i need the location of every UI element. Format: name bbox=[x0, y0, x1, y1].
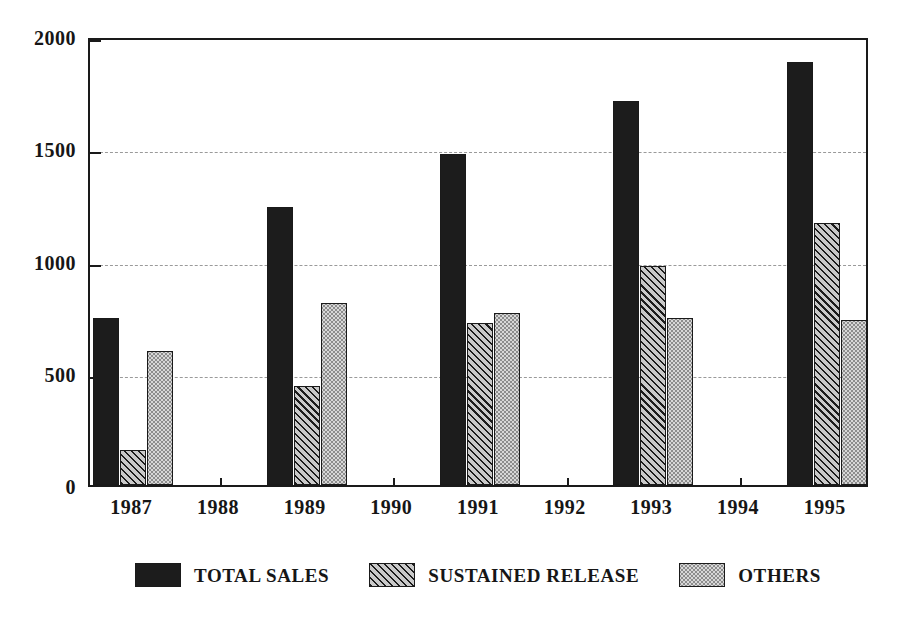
bar bbox=[494, 313, 520, 485]
gridline bbox=[90, 152, 866, 153]
legend-label: OTHERS bbox=[738, 566, 821, 585]
x-tick-label: 1993 bbox=[606, 497, 696, 517]
plot-area bbox=[88, 38, 868, 487]
bar bbox=[321, 303, 347, 485]
x-tick-mark bbox=[220, 478, 222, 485]
legend-label: TOTAL SALES bbox=[194, 566, 329, 585]
bar bbox=[93, 318, 119, 485]
y-tick-label: 1500 bbox=[0, 140, 76, 160]
bar bbox=[667, 318, 693, 485]
bar bbox=[787, 62, 813, 485]
chart-legend: TOTAL SALESSUSTAINED RELEASEOTHERS bbox=[88, 552, 868, 598]
legend-label: SUSTAINED RELEASE bbox=[428, 566, 639, 585]
y-tick-mark bbox=[90, 40, 101, 42]
x-tick-label: 1995 bbox=[780, 497, 870, 517]
plot-inner bbox=[90, 40, 866, 485]
y-tick-label: 500 bbox=[0, 365, 76, 385]
bar-chart: 0500100015002000 19871988198919901991199… bbox=[0, 0, 903, 619]
bar bbox=[267, 207, 293, 485]
x-tick-label: 1991 bbox=[433, 497, 523, 517]
y-tick-label: 0 bbox=[0, 477, 76, 497]
bar bbox=[147, 351, 173, 485]
x-tick-label: 1992 bbox=[520, 497, 610, 517]
legend-item[interactable]: OTHERS bbox=[679, 563, 821, 587]
bar bbox=[640, 266, 666, 485]
x-tick-mark bbox=[740, 478, 742, 485]
x-tick-label: 1989 bbox=[260, 497, 350, 517]
bar bbox=[613, 101, 639, 485]
y-tick-mark bbox=[90, 152, 101, 154]
y-tick-mark bbox=[90, 265, 101, 267]
x-tick-mark bbox=[567, 478, 569, 485]
y-tick-label: 1000 bbox=[0, 253, 76, 273]
bar bbox=[814, 223, 840, 485]
bar bbox=[294, 386, 320, 485]
legend-swatch-icon bbox=[679, 563, 725, 587]
bar bbox=[467, 323, 493, 485]
x-tick-label: 1987 bbox=[86, 497, 176, 517]
y-tick-label: 2000 bbox=[0, 28, 76, 48]
x-tick-label: 1994 bbox=[693, 497, 783, 517]
legend-item[interactable]: SUSTAINED RELEASE bbox=[369, 563, 639, 587]
bar bbox=[440, 154, 466, 485]
x-tick-mark bbox=[393, 478, 395, 485]
bar bbox=[841, 320, 866, 485]
legend-item[interactable]: TOTAL SALES bbox=[135, 563, 329, 587]
legend-swatch-icon bbox=[135, 563, 181, 587]
gridline bbox=[90, 265, 866, 266]
x-tick-label: 1988 bbox=[173, 497, 263, 517]
x-tick-label: 1990 bbox=[346, 497, 436, 517]
legend-swatch-icon bbox=[369, 563, 415, 587]
bar bbox=[120, 450, 146, 485]
